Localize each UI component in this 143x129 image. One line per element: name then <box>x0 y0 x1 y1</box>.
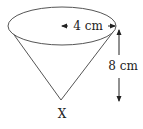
height-label: 8 cm <box>108 59 138 73</box>
cone-diagram: 4 cm 8 cm X <box>0 0 143 129</box>
radius-label: 4 cm <box>73 19 103 33</box>
apex-label: X <box>58 107 67 121</box>
